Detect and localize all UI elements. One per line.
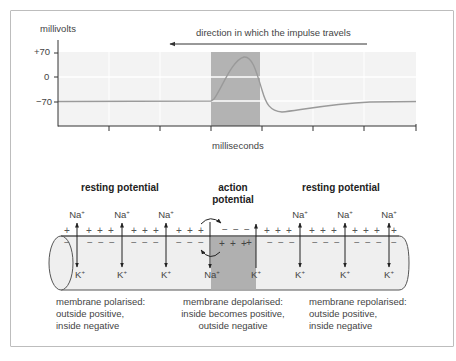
outside-charges: + +++ +++ +++ −−− +++ +++ +++ + xyxy=(64,224,397,236)
svg-text:+: + xyxy=(108,225,114,236)
caption-line: inside becomes positive, xyxy=(178,308,288,320)
heading-resting-potential-left: resting potential xyxy=(81,182,159,193)
na-ion-label: Na+ xyxy=(158,209,174,220)
svg-text:−: − xyxy=(64,237,70,248)
svg-text:−: − xyxy=(109,237,115,248)
na-ion-label: Na+ xyxy=(69,209,85,220)
svg-text:+: + xyxy=(320,225,326,236)
svg-text:−: − xyxy=(153,237,159,248)
svg-text:+: + xyxy=(391,225,397,236)
svg-text:+: + xyxy=(153,225,159,236)
caption-polarised: membrane polarised: outside positive, in… xyxy=(56,296,145,332)
caption-line: membrane repolarised: xyxy=(309,296,407,308)
svg-text:+: + xyxy=(198,225,204,236)
svg-text:−: − xyxy=(233,224,239,235)
svg-text:+: + xyxy=(286,225,292,236)
svg-text:−: − xyxy=(131,237,137,248)
svg-text:−: − xyxy=(334,237,340,248)
svg-text:−: − xyxy=(222,224,228,235)
caption-repolarised: membrane repolarised: outside positive, … xyxy=(309,296,407,332)
heading-action-potential: action potential xyxy=(212,182,254,206)
svg-text:+: + xyxy=(64,225,70,236)
heading-resting-potential-right: resting potential xyxy=(302,182,380,193)
caption-line: outside positive, xyxy=(309,308,407,320)
k-ion-label: K+ xyxy=(161,269,171,280)
k-ion-label: K+ xyxy=(384,269,394,280)
caption-line: inside negative xyxy=(309,320,407,332)
na-ion-label: Na+ xyxy=(381,209,397,220)
na-ion-inflow-label: Na+ xyxy=(204,269,220,280)
caption-line: membrane depolarised: xyxy=(178,296,288,308)
svg-text:+: + xyxy=(352,225,358,236)
svg-text:−: − xyxy=(354,237,360,248)
svg-text:+: + xyxy=(176,225,182,236)
svg-text:+: + xyxy=(264,225,270,236)
caption-line: inside negative xyxy=(56,320,145,332)
svg-text:+: + xyxy=(230,238,236,249)
caption-line: outside positive, xyxy=(56,308,145,320)
na-ion-label: Na+ xyxy=(292,209,308,220)
svg-text:+: + xyxy=(246,237,252,248)
svg-text:−: − xyxy=(176,237,182,248)
svg-text:+: + xyxy=(131,225,137,236)
svg-text:+: + xyxy=(86,225,92,236)
svg-text:+: + xyxy=(309,225,315,236)
caption-line: outside negative xyxy=(178,320,288,332)
svg-text:−: − xyxy=(323,237,329,248)
svg-text:−: − xyxy=(391,237,397,248)
svg-text:+: + xyxy=(363,225,369,236)
svg-text:+: + xyxy=(275,225,281,236)
svg-text:−: − xyxy=(365,237,371,248)
svg-text:−: − xyxy=(98,237,104,248)
svg-text:−: − xyxy=(187,237,193,248)
k-ion-label: K+ xyxy=(75,269,85,280)
svg-text:+: + xyxy=(187,225,193,236)
k-ion-label: K+ xyxy=(340,269,350,280)
k-ion-label: K+ xyxy=(117,269,127,280)
k-ion-label: K+ xyxy=(295,269,305,280)
svg-text:−: − xyxy=(267,237,273,248)
caption-depolarised: membrane depolarised: inside becomes pos… xyxy=(178,296,288,332)
svg-text:+: + xyxy=(374,225,380,236)
svg-text:+: + xyxy=(142,225,148,236)
svg-text:+: + xyxy=(97,225,103,236)
svg-text:+: + xyxy=(219,238,225,249)
svg-text:−: − xyxy=(142,237,148,248)
svg-text:−: − xyxy=(376,237,382,248)
svg-text:−: − xyxy=(198,237,204,248)
na-ion-label: Na+ xyxy=(114,209,130,220)
svg-text:−: − xyxy=(312,237,318,248)
svg-text:−: − xyxy=(289,237,295,248)
svg-text:−: − xyxy=(244,224,250,235)
k-ion-outflow-label: K+ xyxy=(251,269,261,280)
na-ion-label: Na+ xyxy=(337,209,353,220)
svg-text:−: − xyxy=(87,237,93,248)
svg-text:+: + xyxy=(331,225,337,236)
caption-line: membrane polarised: xyxy=(56,296,145,308)
svg-text:−: − xyxy=(278,237,284,248)
